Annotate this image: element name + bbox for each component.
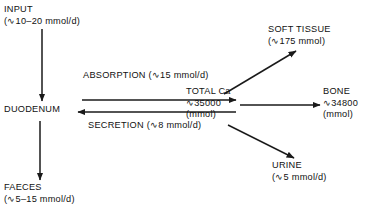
node-total-ca-label: TOTAL Ca [186, 86, 231, 98]
edge-label-secretion-value: (∿8 mmol/d) [147, 120, 202, 130]
node-faeces: FAECES (∿5–15 mmol/d) [4, 182, 75, 205]
node-input: INPUT (∿10–20 mmol/d) [4, 4, 80, 27]
edge-label-absorption-value: (∿15 mmol/d) [149, 70, 209, 80]
node-total-ca: TOTAL Ca ∿35000 (mmol) [186, 86, 231, 121]
node-urine-value: (∿5 mmol/d) [272, 172, 327, 184]
node-bone-unit: (mmol) [323, 109, 358, 121]
node-soft-tissue: SOFT TISSUE (∿175 mmol) [268, 24, 331, 47]
node-input-value: (∿10–20 mmol/d) [4, 16, 80, 28]
edge-label-secretion-title: SECRETION [88, 120, 144, 130]
node-faeces-label: FAECES [4, 182, 75, 194]
node-input-label: INPUT [4, 4, 80, 16]
node-total-ca-value: ∿35000 [186, 98, 231, 110]
node-duodenum: DUODENUM [4, 104, 60, 116]
arrow-total-ca-to-urine [228, 125, 294, 158]
node-faeces-value: (∿5–15 mmol/d) [4, 194, 75, 206]
node-urine-label: URINE [272, 160, 327, 172]
node-soft-tissue-value: (∿175 mmol) [268, 36, 331, 48]
node-duodenum-label: DUODENUM [4, 104, 60, 116]
edge-label-absorption-title: ABSORPTION [83, 70, 146, 80]
node-urine: URINE (∿5 mmol/d) [272, 160, 327, 183]
node-bone-value: ∿34800 [323, 98, 358, 110]
diagram-canvas: INPUT (∿10–20 mmol/d) DUODENUM FAECES (∿… [0, 0, 378, 220]
edge-label-absorption: ABSORPTION (∿15 mmol/d) [83, 70, 209, 82]
node-bone-label: BONE [323, 86, 358, 98]
edge-label-secretion: SECRETION (∿8 mmol/d) [88, 120, 201, 132]
node-soft-tissue-label: SOFT TISSUE [268, 24, 331, 36]
node-bone: BONE ∿34800 (mmol) [323, 86, 358, 121]
arrow-total-ca-to-soft-tissue [224, 51, 296, 94]
